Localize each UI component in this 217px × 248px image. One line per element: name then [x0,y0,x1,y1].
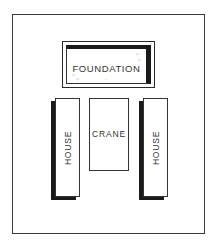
house-block-right: HOUSE [143,98,168,197]
crane-label: CRANE [90,129,128,139]
foundation-label: FOUNDATION [67,63,146,74]
foundation-inner-border: ⁘ ⁘ ⁘ ⁘ · FOUNDATION [66,45,151,84]
house-block-left: HOUSE [55,98,80,197]
texture-speck: ⁘ [75,77,80,83]
house-label: HOUSE [151,130,161,164]
texture-speck: · [105,76,107,82]
foundation-block: ⁘ ⁘ ⁘ ⁘ · FOUNDATION [62,41,155,88]
crane-block: CRANE [89,98,129,171]
house-label: HOUSE [63,130,73,164]
